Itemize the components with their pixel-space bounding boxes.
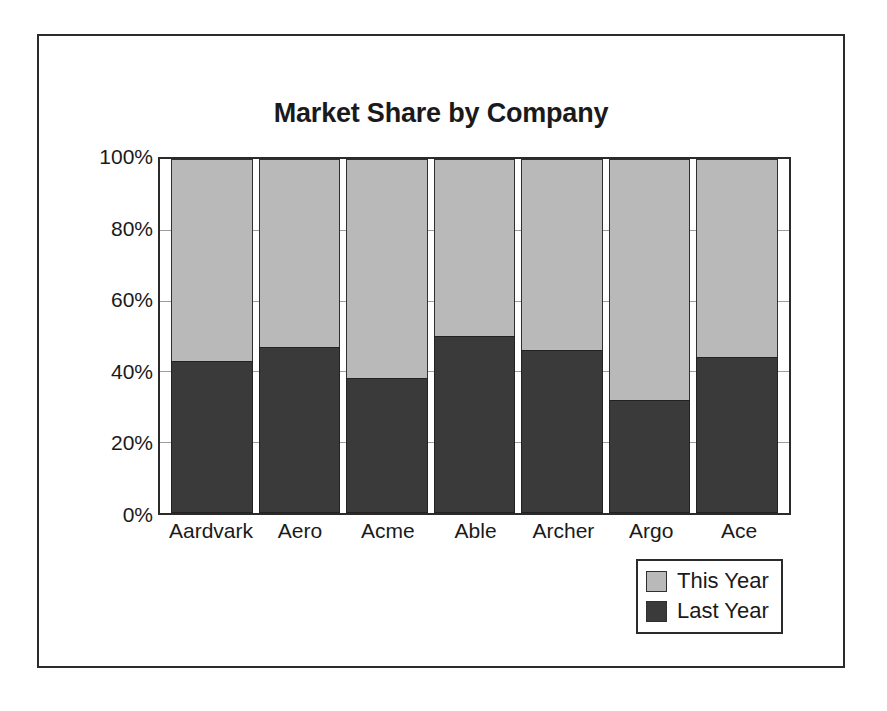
chart-legend: This YearLast Year (636, 559, 783, 634)
bar-group[interactable] (259, 159, 341, 513)
x-axis-tick-labels: AardvarkAeroAcmeAbleArcherArgoAce (158, 519, 791, 543)
legend-item-label: Last Year (677, 598, 769, 624)
legend-swatch-icon (646, 601, 667, 622)
bar-segment-this-year[interactable] (696, 159, 778, 357)
x-axis-tick-label: Ace (698, 519, 780, 543)
bar-series-container (160, 159, 789, 513)
x-axis-tick-label: Able (435, 519, 517, 543)
bar-group[interactable] (696, 159, 778, 513)
plot-inner (160, 159, 789, 513)
bar-segment-this-year[interactable] (259, 159, 341, 347)
bar-group[interactable] (609, 159, 691, 513)
y-axis-tick-label: 40% (77, 360, 153, 384)
y-axis-tick-label: 0% (77, 503, 153, 527)
legend-swatch-icon (646, 571, 667, 592)
bar-segment-last-year[interactable] (609, 400, 691, 513)
bar-segment-this-year[interactable] (609, 159, 691, 400)
bar-segment-this-year[interactable] (521, 159, 603, 350)
bar-segment-last-year[interactable] (346, 378, 428, 513)
x-axis-tick-label: Aardvark (169, 519, 253, 543)
chart-title: Market Share by Company (39, 98, 843, 129)
legend-item-label: This Year (677, 568, 769, 594)
y-axis-tick-label: 60% (77, 288, 153, 312)
chart-page: Market Share by Company 0%20%40%60%80%10… (0, 0, 887, 711)
figure-frame: Market Share by Company 0%20%40%60%80%10… (37, 34, 845, 668)
x-axis-tick-label: Archer (523, 519, 605, 543)
bar-group[interactable] (521, 159, 603, 513)
bar-segment-this-year[interactable] (171, 159, 253, 361)
y-axis-tick-label: 20% (77, 431, 153, 455)
x-axis-tick-label: Argo (610, 519, 692, 543)
bar-group[interactable] (171, 159, 253, 513)
y-axis-tick-label: 100% (77, 145, 153, 169)
bar-segment-last-year[interactable] (521, 350, 603, 513)
y-axis-tick-labels: 0%20%40%60%80%100% (67, 157, 153, 515)
legend-item[interactable]: This Year (646, 566, 769, 596)
bar-segment-this-year[interactable] (346, 159, 428, 378)
legend-item[interactable]: Last Year (646, 596, 769, 626)
y-axis-tick-label: 80% (77, 217, 153, 241)
bar-group[interactable] (434, 159, 516, 513)
plot-area (158, 157, 791, 515)
bar-segment-last-year[interactable] (259, 347, 341, 513)
bar-segment-last-year[interactable] (434, 336, 516, 513)
bar-segment-this-year[interactable] (434, 159, 516, 336)
x-axis-tick-label: Acme (347, 519, 429, 543)
bar-segment-last-year[interactable] (696, 357, 778, 513)
bar-segment-last-year[interactable] (171, 361, 253, 513)
bar-group[interactable] (346, 159, 428, 513)
x-axis-tick-label: Aero (259, 519, 341, 543)
